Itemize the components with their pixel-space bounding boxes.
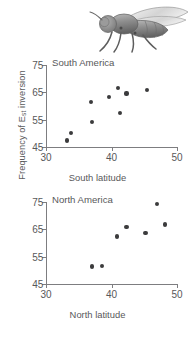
- x-tick-north-40: [112, 284, 113, 288]
- data-point: [115, 234, 119, 238]
- drosophila-fly-illustration: [88, 2, 192, 54]
- data-point: [89, 100, 93, 104]
- x-tick-north-50: [177, 284, 178, 288]
- y-axis-line-south: [46, 65, 47, 147]
- y-tick-label-south-45: 45: [32, 142, 43, 153]
- plot-area-north-america: 45556575304050: [46, 202, 177, 284]
- data-point: [90, 264, 94, 268]
- y-tick-label-north-55: 55: [32, 251, 43, 262]
- x-tick-north-30: [46, 284, 47, 288]
- data-point: [145, 88, 149, 92]
- data-point: [90, 120, 94, 124]
- figure-root: Frequency of Est inversion South America…: [0, 0, 195, 342]
- data-point: [118, 111, 122, 115]
- x-tick-label-south-50: 50: [171, 152, 182, 163]
- x-tick-label-south-40: 40: [106, 152, 117, 163]
- x-tick-south-40: [112, 147, 113, 151]
- y-tick-label-north-45: 45: [32, 279, 43, 290]
- x-tick-south-50: [177, 147, 178, 151]
- x-tick-label-north-50: 50: [171, 289, 182, 300]
- x-tick-south-30: [46, 147, 47, 151]
- data-point: [143, 231, 147, 235]
- y-tick-label-north-65: 65: [32, 224, 43, 235]
- y-axis-line-north: [46, 202, 47, 284]
- x-tick-label-south-30: 30: [40, 152, 51, 163]
- data-point: [100, 264, 104, 268]
- data-point: [163, 222, 167, 226]
- data-point: [116, 86, 120, 90]
- y-tick-label-south-75: 75: [32, 60, 43, 71]
- x-tick-label-north-30: 30: [40, 289, 51, 300]
- y-tick-label-north-75: 75: [32, 197, 43, 208]
- y-tick-label-south-65: 65: [32, 87, 43, 98]
- data-point: [65, 138, 69, 142]
- data-point: [69, 131, 73, 135]
- x-axis-label-south-america: South latitude: [0, 172, 195, 183]
- x-axis-label-north-america: North latitude: [0, 309, 195, 320]
- data-point: [124, 91, 128, 95]
- chart-panel-north-america: North America 45556575304050 North latit…: [0, 192, 195, 342]
- chart-panel-south-america: South America 45556575304050 South latit…: [0, 55, 195, 167]
- x-tick-label-north-40: 40: [106, 289, 117, 300]
- y-tick-label-south-55: 55: [32, 114, 43, 125]
- data-point: [124, 225, 128, 229]
- cut-off-caption: [0, 336, 195, 342]
- data-point: [107, 95, 111, 99]
- data-point: [155, 202, 159, 206]
- plot-area-south-america: 45556575304050: [46, 65, 177, 147]
